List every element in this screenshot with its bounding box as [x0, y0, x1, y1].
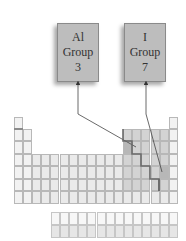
metal-nonmetal-staircase [123, 129, 159, 191]
arrow-i [146, 83, 162, 172]
arrows-overlay [0, 0, 186, 241]
arrow-al [78, 83, 136, 147]
